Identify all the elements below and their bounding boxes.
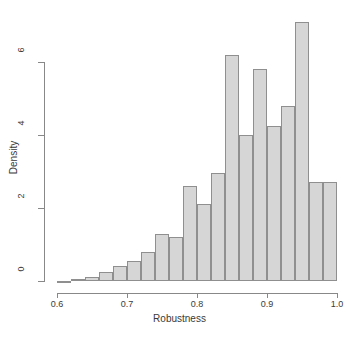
x-axis-tick-label: 0.8: [177, 299, 217, 309]
histogram-bar: [71, 279, 85, 281]
y-axis-tick: [38, 135, 44, 136]
histogram-bar: [155, 234, 169, 281]
histogram-bar: [323, 182, 337, 281]
histogram-bars: [0, 0, 359, 337]
y-axis-tick-label: 0: [17, 267, 26, 297]
x-axis-title: Robustness: [0, 313, 359, 324]
y-axis-tick-label: 6: [17, 48, 26, 78]
x-axis-tick: [197, 293, 198, 298]
histogram-bar: [267, 126, 281, 281]
histogram-bar: [295, 22, 309, 281]
y-axis-title: Density: [8, 128, 19, 188]
y-axis-tick: [38, 281, 44, 282]
histogram-bar: [169, 237, 183, 281]
x-axis-tick: [337, 293, 338, 298]
histogram-bar: [197, 204, 211, 281]
y-axis-line: [44, 62, 45, 282]
y-axis-tick-label: 2: [17, 194, 26, 224]
histogram-plot: 0246 Density 0.60.70.80.91.0 Robustness: [0, 0, 359, 337]
histogram-bar: [57, 281, 71, 283]
histogram-bar: [183, 186, 197, 281]
histogram-bar: [113, 266, 127, 281]
histogram-bar: [141, 252, 155, 281]
histogram-bar: [211, 173, 225, 281]
histogram-bar: [281, 106, 295, 281]
histogram-bar: [309, 182, 323, 281]
y-axis-tick: [38, 208, 44, 209]
x-axis-tick-label: 0.9: [247, 299, 287, 309]
x-axis-tick-label: 0.6: [37, 299, 77, 309]
x-axis-tick: [127, 293, 128, 298]
histogram-bar: [239, 135, 253, 281]
x-axis-tick: [57, 293, 58, 298]
histogram-bar: [127, 261, 141, 281]
histogram-bar: [225, 55, 239, 281]
histogram-bar: [99, 272, 113, 281]
x-axis-tick-label: 0.7: [107, 299, 147, 309]
x-axis-tick: [267, 293, 268, 298]
x-axis-tick-label: 1.0: [317, 299, 357, 309]
histogram-bar: [253, 69, 267, 281]
histogram-bar: [85, 277, 99, 281]
y-axis-tick: [38, 62, 44, 63]
